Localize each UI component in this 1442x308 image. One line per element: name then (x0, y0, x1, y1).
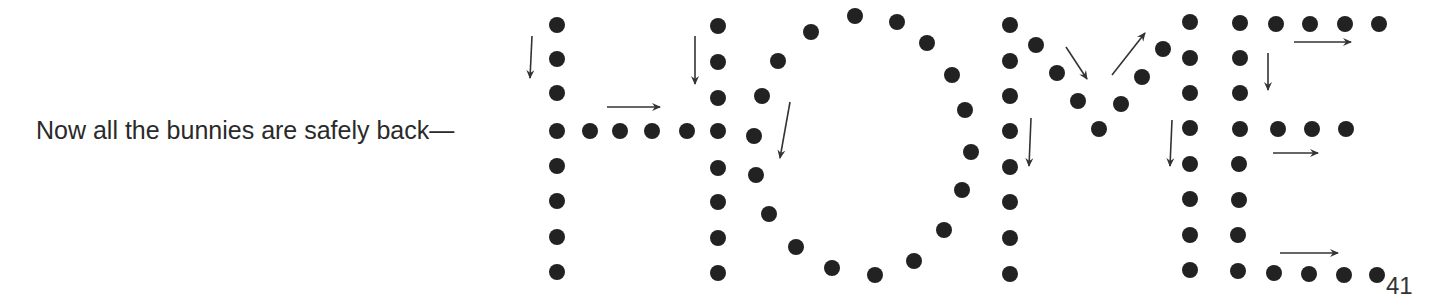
dot (1134, 69, 1150, 85)
dot (954, 182, 970, 198)
direction-arrow-icon (530, 36, 532, 78)
dot (1182, 227, 1198, 243)
dot (612, 123, 628, 139)
dot (549, 51, 565, 67)
dot (710, 123, 726, 139)
dot (761, 206, 777, 222)
letter-h-group (530, 17, 726, 281)
dot (1028, 37, 1044, 53)
dot (1002, 194, 1018, 210)
dot (1182, 120, 1198, 136)
dot (1182, 191, 1198, 207)
dot (1302, 16, 1318, 32)
letter-e-group (1230, 15, 1387, 283)
dot (1182, 85, 1198, 101)
dot (906, 253, 922, 269)
dot (549, 193, 565, 209)
dot (788, 239, 804, 255)
letter-m-group (1002, 14, 1198, 282)
dot (824, 260, 840, 276)
dot (549, 123, 565, 139)
dot (549, 229, 565, 245)
dot (1182, 262, 1198, 278)
dot-to-dot-puzzle (0, 0, 1442, 308)
direction-arrow-icon (1112, 33, 1145, 75)
dot (1232, 50, 1248, 66)
dot (1182, 14, 1198, 30)
dot (803, 24, 819, 40)
dot (1002, 53, 1018, 69)
dot (1182, 156, 1198, 172)
dot (1155, 41, 1171, 57)
dot (1230, 263, 1246, 279)
dot (1002, 230, 1018, 246)
dot (1304, 121, 1320, 137)
dot (549, 17, 565, 33)
dot (1232, 15, 1248, 31)
dot (549, 264, 565, 280)
dot (1232, 85, 1248, 101)
dot (679, 123, 695, 139)
dot (1232, 121, 1248, 137)
dot (746, 128, 762, 144)
dot (1371, 16, 1387, 32)
letter-o-group (746, 8, 979, 283)
dot (1002, 88, 1018, 104)
dot (710, 194, 726, 210)
dot (710, 160, 726, 176)
dot (1231, 156, 1247, 172)
dot (549, 85, 565, 101)
dot (748, 167, 764, 183)
dot (1049, 65, 1065, 81)
dot (710, 54, 726, 70)
dot (1070, 93, 1086, 109)
dot (1182, 50, 1198, 66)
dot (1230, 227, 1246, 243)
dot (1002, 17, 1018, 33)
dot (1002, 123, 1018, 139)
direction-arrow-icon (1066, 47, 1087, 79)
dot (644, 123, 660, 139)
dot (1301, 266, 1317, 282)
dot (710, 90, 726, 106)
dot (1113, 96, 1129, 112)
dot (963, 144, 979, 160)
dot (1002, 159, 1018, 175)
direction-arrow-icon (780, 102, 790, 158)
dot (919, 35, 935, 51)
dot (936, 222, 952, 238)
direction-arrow-icon (1029, 118, 1031, 166)
dot (1337, 16, 1353, 32)
dot (710, 18, 726, 34)
dot (710, 265, 726, 281)
dot (1091, 121, 1107, 137)
dot (1002, 266, 1018, 282)
dot (889, 14, 905, 30)
dot (1338, 121, 1354, 137)
dot (1266, 265, 1282, 281)
dot (847, 8, 863, 24)
dot (1369, 267, 1385, 283)
dot (957, 102, 973, 118)
dot (867, 267, 883, 283)
dot (944, 67, 960, 83)
dot (1268, 16, 1284, 32)
dot (770, 53, 786, 69)
dot (1270, 121, 1286, 137)
dot (710, 230, 726, 246)
dot (549, 158, 565, 174)
dot (1231, 192, 1247, 208)
dot (754, 88, 770, 104)
direction-arrow-icon (1170, 120, 1172, 166)
dot (1336, 267, 1352, 283)
dot (582, 123, 598, 139)
